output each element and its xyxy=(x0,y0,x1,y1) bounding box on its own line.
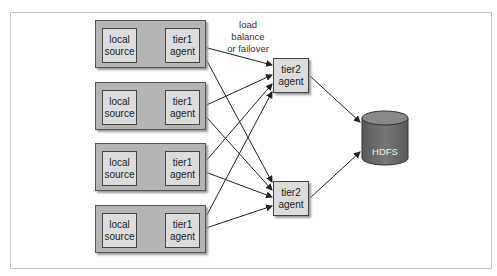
tier1-group-1: localsource tier1agent xyxy=(95,20,206,68)
local-source-box: localsource xyxy=(102,90,137,125)
tier1-group-4: localsource tier1agent xyxy=(95,205,206,253)
tier2-agent-box-2: tier2agent xyxy=(273,181,309,216)
tier1-agent-box: tier1agent xyxy=(165,28,200,63)
local-source-box: localsource xyxy=(102,151,137,186)
tier1-agent-box: tier1agent xyxy=(165,90,200,125)
hdfs-label: HDFS xyxy=(362,146,408,157)
tier1-group-2: localsource tier1agent xyxy=(95,82,206,130)
load-balance-note: load balance or failover xyxy=(222,19,274,55)
local-source-box: localsource xyxy=(102,28,137,63)
local-source-box: localsource xyxy=(102,213,137,248)
tier1-group-3: localsource tier1agent xyxy=(95,143,206,191)
tier1-agent-box: tier1agent xyxy=(165,213,200,248)
tier1-agent-box: tier1agent xyxy=(165,151,200,186)
tier2-agent-box-1: tier2agent xyxy=(273,58,309,93)
